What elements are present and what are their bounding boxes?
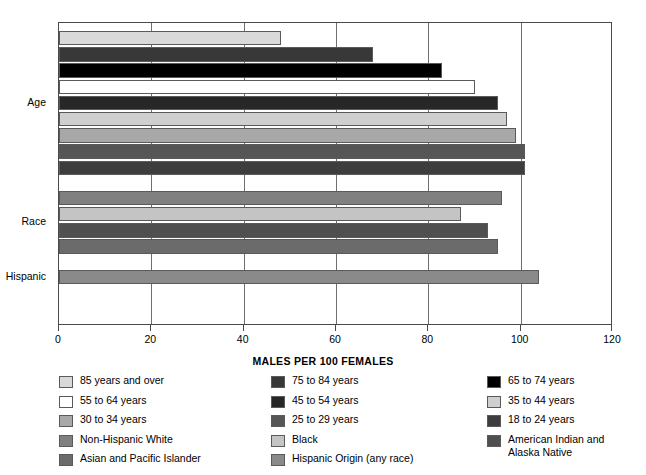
legend-label: 45 to 54 years — [292, 394, 359, 407]
legend-item[interactable]: American Indian andAlaska Native — [487, 433, 642, 463]
legend-label: American Indian andAlaska Native — [508, 433, 604, 459]
bar — [59, 239, 498, 253]
legend-label: 85 years and over — [80, 374, 164, 387]
x-axis-tick-label: 40 — [237, 333, 249, 345]
bar — [59, 80, 475, 94]
legend-column-3: 65 to 74 years35 to 44 years18 to 24 yea… — [487, 374, 642, 466]
legend-label: 75 to 84 years — [292, 374, 359, 387]
bar-row — [59, 96, 613, 110]
legend-swatch-icon — [487, 396, 501, 408]
legend-swatch-icon — [59, 376, 73, 388]
x-axis-tick — [58, 325, 59, 331]
legend-swatch-icon — [59, 454, 73, 466]
legend-item[interactable]: 35 to 44 years — [487, 394, 642, 410]
legend-swatch-icon — [59, 396, 73, 408]
group-label-hispanic: Hispanic — [6, 270, 46, 282]
x-axis-tick — [611, 325, 612, 331]
x-axis-tick — [427, 325, 428, 331]
bar-row — [59, 223, 613, 237]
bar — [59, 112, 507, 126]
bar-row — [59, 161, 613, 175]
legend-item[interactable]: 45 to 54 years — [271, 394, 481, 410]
bar — [59, 31, 281, 45]
legend-label: 65 to 74 years — [508, 374, 575, 387]
legend-item[interactable]: 75 to 84 years — [271, 374, 481, 390]
bar — [59, 161, 525, 175]
legend-column-1: 85 years and over55 to 64 years30 to 34 … — [59, 374, 259, 472]
x-axis-tick-label: 0 — [55, 333, 61, 345]
legend-label: 18 to 24 years — [508, 413, 575, 426]
x-axis-tick-label: 60 — [329, 333, 341, 345]
legend-swatch-icon — [59, 435, 73, 447]
bar-row — [59, 80, 613, 94]
bar-row — [59, 128, 613, 142]
legend-swatch-icon — [271, 376, 285, 388]
group-label-race: Race — [21, 215, 46, 227]
bar-row — [59, 63, 613, 77]
x-axis-tick-label: 120 — [603, 333, 621, 345]
legend-label: Black — [292, 433, 318, 446]
legend-label: Asian and Pacific Islander — [80, 452, 201, 465]
x-axis: 020406080100120 — [58, 325, 612, 351]
plot-area — [58, 22, 612, 325]
legend-label: Non-Hispanic White — [80, 433, 173, 446]
legend-item[interactable]: 65 to 74 years — [487, 374, 642, 390]
legend-item[interactable]: 85 years and over — [59, 374, 259, 390]
x-axis-tick — [243, 325, 244, 331]
bar-row — [59, 144, 613, 158]
legend-label: 25 to 29 years — [292, 413, 359, 426]
bar — [59, 270, 539, 284]
legend-swatch-icon — [487, 415, 501, 427]
bar — [59, 96, 498, 110]
legend-swatch-icon — [487, 435, 501, 447]
bar-row — [59, 112, 613, 126]
bar-row — [59, 31, 613, 45]
bar-row — [59, 47, 613, 61]
x-axis-tick — [150, 325, 151, 331]
bar — [59, 191, 502, 205]
legend-item[interactable]: 18 to 24 years — [487, 413, 642, 429]
legend-swatch-icon — [271, 454, 285, 466]
legend-item[interactable]: Asian and Pacific Islander — [59, 452, 259, 468]
legend-swatch-icon — [59, 415, 73, 427]
chart-container: AgeRaceHispanic 020406080100120 MALES PE… — [0, 0, 646, 475]
bar — [59, 144, 525, 158]
legend-item[interactable]: 25 to 29 years — [271, 413, 481, 429]
bar — [59, 47, 373, 61]
x-axis-title: MALES PER 100 FEMALES — [0, 355, 646, 367]
category-axis-labels: AgeRaceHispanic — [0, 22, 54, 325]
bar-row — [59, 191, 613, 205]
legend-item[interactable]: Non-Hispanic White — [59, 433, 259, 449]
x-axis-tick — [520, 325, 521, 331]
bar-row — [59, 239, 613, 253]
legend-item[interactable]: 55 to 64 years — [59, 394, 259, 410]
legend-swatch-icon — [487, 376, 501, 388]
x-axis-tick-label: 100 — [511, 333, 529, 345]
legend-label: Hispanic Origin (any race) — [292, 452, 413, 465]
legend-column-2: 75 to 84 years45 to 54 years25 to 29 yea… — [271, 374, 481, 472]
bar — [59, 63, 442, 77]
bar-row — [59, 270, 613, 284]
bar — [59, 207, 461, 221]
bar — [59, 223, 488, 237]
legend-label: 30 to 34 years — [80, 413, 147, 426]
x-axis-tick-label: 80 — [421, 333, 433, 345]
bar — [59, 128, 516, 142]
legend-swatch-icon — [271, 396, 285, 408]
legend-item[interactable]: Black — [271, 433, 481, 449]
legend-label: 55 to 64 years — [80, 394, 147, 407]
x-axis-tick — [335, 325, 336, 331]
x-axis-tick-label: 20 — [144, 333, 156, 345]
legend-swatch-icon — [271, 435, 285, 447]
bar-row — [59, 207, 613, 221]
group-label-age: Age — [27, 96, 46, 108]
legend: 85 years and over55 to 64 years30 to 34 … — [0, 374, 646, 472]
legend-item[interactable]: 30 to 34 years — [59, 413, 259, 429]
legend-label: 35 to 44 years — [508, 394, 575, 407]
legend-item[interactable]: Hispanic Origin (any race) — [271, 452, 481, 468]
legend-swatch-icon — [271, 415, 285, 427]
